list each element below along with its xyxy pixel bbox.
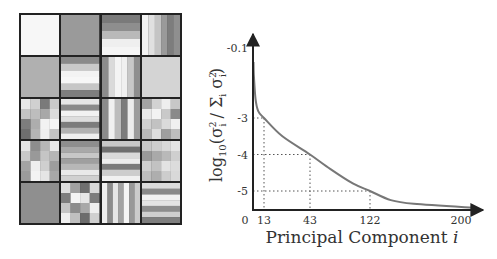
dotted-guides [253, 118, 370, 210]
x-tick-label: 0 [242, 214, 249, 227]
eigenvalue-chart: -0.1-3-4-5 01343122200 Principal Compone… [0, 0, 497, 259]
y-tick-label: -0.1 [227, 42, 248, 55]
y-tick-label: -5 [237, 185, 248, 198]
y-tick-label: -3 [237, 112, 248, 125]
x-tick-labels: 01343122200 [242, 214, 472, 227]
x-tick-label: 43 [303, 214, 317, 227]
y-axis-label: log10(σ2i / Σi σ2i) [207, 68, 228, 182]
x-tick-label: 200 [451, 214, 472, 227]
y-tick-labels: -0.1-3-4-5 [227, 42, 248, 198]
x-axis-label: Principal Component i [266, 227, 459, 247]
y-tick-label: -4 [237, 149, 248, 162]
x-tick-label: 13 [257, 214, 271, 227]
x-tick-label: 122 [360, 214, 381, 227]
eigenvalue-curve [254, 62, 479, 208]
